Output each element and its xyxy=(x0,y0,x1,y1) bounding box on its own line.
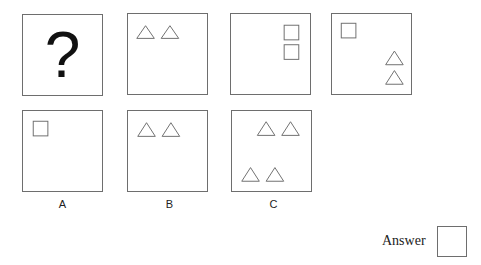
two-triangles-horizontal-icon xyxy=(128,14,207,94)
question-panel-3 xyxy=(230,13,311,95)
option-a-panel[interactable] xyxy=(22,110,103,192)
two-triangles-horizontal-icon xyxy=(128,111,207,191)
single-square-icon xyxy=(23,111,102,191)
answer-box[interactable] xyxy=(437,226,467,257)
option-c-panel[interactable] xyxy=(231,110,312,192)
square-and-two-triangles-icon xyxy=(332,14,411,94)
two-squares-vertical-icon xyxy=(231,14,310,94)
four-triangles-icon xyxy=(232,111,311,191)
option-b-label: B xyxy=(129,198,210,210)
option-b-panel[interactable] xyxy=(127,110,208,192)
question-panel-1: ? xyxy=(22,14,103,96)
question-panel-4 xyxy=(331,13,412,95)
question-mark-icon: ? xyxy=(23,15,102,95)
question-panel-2 xyxy=(127,13,208,95)
option-a-label: A xyxy=(22,198,103,210)
answer-label: Answer xyxy=(382,233,426,249)
option-c-label: C xyxy=(233,198,314,210)
